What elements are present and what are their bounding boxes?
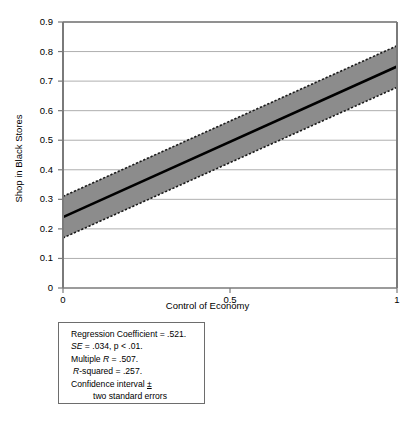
y-tick-label-0.5: 0.5 (23, 134, 53, 145)
statistics-annotation-box: Regression Coefficient = .521. SE = .034… (58, 322, 205, 404)
y-tick-label-0.2: 0.2 (23, 223, 53, 234)
stat-multiple-prefix: Multiple (71, 354, 103, 364)
y-tick-label-0: 0 (23, 282, 53, 293)
regression-chart-figure: 0.9 0.8 0.7 0.6 0.5 0.4 0.3 0.2 0.1 0 0 … (0, 0, 415, 423)
stat-regression-coefficient: Regression Coefficient = .521. (59, 328, 204, 340)
y-tick-label-0.3: 0.3 (23, 193, 53, 204)
stat-se-symbol: SE (71, 341, 82, 351)
y-tick-label-0.1: 0.1 (23, 252, 53, 263)
stat-se-value: = .034, p < .01. (82, 341, 142, 351)
stat-standard-error: SE = .034, p < .01. (59, 340, 204, 352)
stat-rsq-value: -squared = .257. (79, 366, 142, 376)
plus-minus-icon: ± (147, 379, 152, 389)
y-tick-label-0.8: 0.8 (23, 46, 53, 57)
x-axis-ticks (63, 288, 397, 293)
y-tick-label-0.4: 0.4 (23, 164, 53, 175)
y-tick-label-0.9: 0.9 (23, 16, 53, 27)
y-tick-label-0.7: 0.7 (23, 75, 53, 86)
y-axis-title: Shop in Black Stores (13, 79, 24, 239)
y-tick-label-0.6: 0.6 (23, 105, 53, 116)
stat-confidence-interval: Confidence interval ± (59, 378, 204, 390)
stat-multiple-r: Multiple R = .507. (59, 353, 204, 365)
regression-line (63, 67, 397, 218)
x-axis-title: Control of Economy (0, 300, 415, 311)
stat-r-squared: R-squared = .257. (59, 365, 204, 377)
stat-ci-prefix: Confidence interval (71, 379, 147, 389)
stat-multiple-r-value: = .507. (109, 354, 138, 364)
stat-two-standard-errors: two standard errors (59, 390, 204, 402)
